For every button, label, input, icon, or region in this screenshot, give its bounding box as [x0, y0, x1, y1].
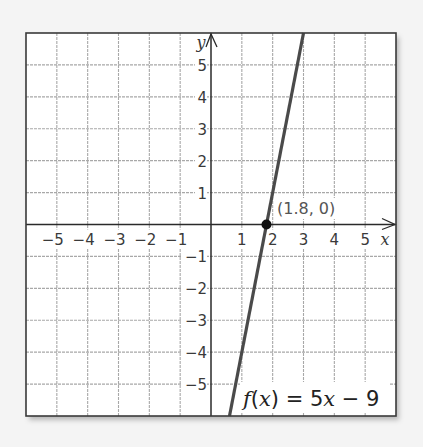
equation-open-paren: (	[251, 387, 259, 411]
y-axis-name: y	[195, 33, 206, 52]
y-tick-label: 2	[197, 153, 207, 171]
x-tick-label: 5	[360, 231, 370, 249]
x-tick-label: −5	[42, 231, 64, 249]
x-tick-label: 4	[330, 231, 340, 249]
x-tick-label: −4	[73, 231, 95, 249]
equation-middle: ) = 5	[271, 387, 324, 411]
y-tick-label: 3	[197, 121, 207, 139]
y-tick-label: −5	[185, 376, 207, 394]
equation-x2: x	[323, 387, 335, 411]
x-tick-label: 2	[268, 231, 278, 249]
x-tick-label: −2	[134, 231, 156, 249]
y-tick-label: −4	[185, 344, 207, 362]
y-tick-label: 1	[197, 185, 207, 203]
x-tick-label: −1	[165, 231, 187, 249]
y-tick-label: −2	[185, 280, 207, 298]
equation-x: x	[259, 387, 271, 411]
x-intercept-point	[262, 220, 272, 230]
y-tick-label: 5	[197, 57, 207, 75]
x-tick-label: −3	[103, 231, 125, 249]
chart-area: −5−4−3−2−11234554321−1−2−3−4−5xy f(x) = …	[0, 0, 423, 447]
equation-label: f(x) = 5x − 9	[241, 387, 379, 411]
equation-tail: − 9	[335, 387, 379, 411]
y-tick-label: 4	[197, 89, 207, 107]
y-tick-label: −3	[185, 312, 207, 330]
x-tick-label: 1	[237, 231, 247, 249]
y-tick-label: −1	[185, 248, 207, 266]
x-axis-name: x	[380, 230, 389, 249]
x-tick-label: 3	[299, 231, 309, 249]
point-label: (1.8, 0)	[277, 199, 335, 218]
